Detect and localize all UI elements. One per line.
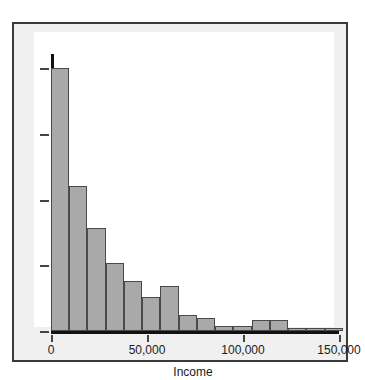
x-axis-tick xyxy=(51,335,53,342)
x-axis-line xyxy=(51,331,339,334)
y-axis-tick xyxy=(40,331,49,333)
y-axis-tick xyxy=(40,200,49,202)
plot-canvas xyxy=(34,32,334,327)
x-axis-title: Income xyxy=(14,365,365,379)
y-axis-tick xyxy=(40,134,49,136)
x-axis-tick-label: 50,000 xyxy=(129,343,166,357)
y-axis-line xyxy=(51,54,54,334)
x-axis-tick xyxy=(147,335,149,342)
top-caption-strip xyxy=(0,0,358,14)
x-axis-tick-label: 100,000 xyxy=(221,343,264,357)
x-axis-tick-label: 150,000 xyxy=(317,343,360,357)
figure-frame: 050,000100,000150,000 Income xyxy=(12,22,348,362)
x-axis-tick xyxy=(243,335,245,342)
x-axis-tick xyxy=(339,335,341,342)
y-axis-tick xyxy=(40,265,49,267)
y-axis-tick xyxy=(40,68,49,70)
x-axis-tick-label: 0 xyxy=(48,343,55,357)
